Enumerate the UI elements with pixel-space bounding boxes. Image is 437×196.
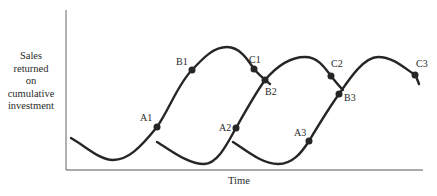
curve-1	[71, 47, 270, 160]
point-b3	[336, 91, 343, 98]
label-a1: A1	[140, 112, 152, 123]
point-c1	[251, 66, 258, 73]
curve-3	[233, 57, 419, 164]
point-c3	[412, 72, 419, 79]
label-b1: B1	[176, 56, 188, 67]
point-a3	[306, 138, 313, 145]
label-a3: A3	[294, 127, 306, 138]
curve-2	[157, 57, 343, 164]
label-c3: C3	[416, 58, 428, 69]
point-b1	[189, 67, 196, 74]
chart-plot: A1 B1 C1 A2 B2 C2 A3 B3 C3	[0, 0, 437, 196]
label-c2: C2	[331, 58, 343, 69]
point-b2	[262, 77, 269, 84]
point-a2	[233, 125, 240, 132]
label-c1: C1	[249, 54, 261, 65]
label-b2: B2	[265, 86, 277, 97]
point-a1	[154, 124, 161, 131]
label-a2: A2	[219, 122, 231, 133]
label-b3: B3	[344, 92, 356, 103]
point-c2	[328, 73, 335, 80]
